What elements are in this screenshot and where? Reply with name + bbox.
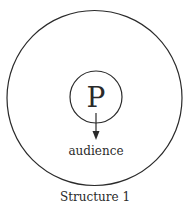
audience-label: audience	[68, 144, 123, 158]
caption: Structure 1	[60, 190, 130, 204]
arrow-head-icon	[93, 131, 100, 140]
center-label: P	[87, 81, 106, 114]
structure-diagram: P audience Structure 1	[0, 0, 188, 204]
